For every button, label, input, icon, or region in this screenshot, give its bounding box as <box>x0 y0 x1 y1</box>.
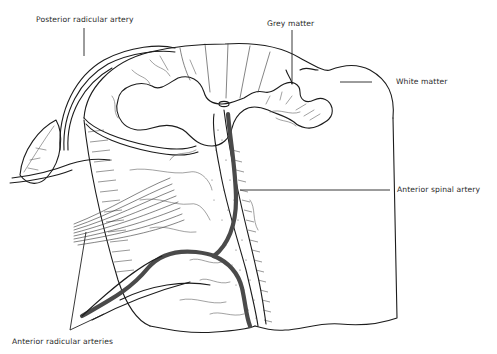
grey-matter-shape <box>117 68 333 146</box>
label-anterior-radicular-arteries: Anterior radicular arteries <box>12 338 113 346</box>
label-posterior-radicular-artery: Posterior radicular artery <box>36 16 134 24</box>
anterior-root-fibres <box>74 178 184 245</box>
label-anterior-spinal-artery: Anterior spinal artery <box>397 186 480 194</box>
surface-vessels <box>130 150 258 315</box>
label-white-matter: White matter <box>396 78 448 86</box>
diagram-illustration <box>0 0 497 354</box>
left-side-hatching <box>88 130 134 272</box>
label-grey-matter: Grey matter <box>267 20 314 28</box>
white-matter-septa <box>180 44 270 98</box>
spinal-cord-blood-supply-diagram: Posterior radicular artery Grey matter W… <box>0 0 497 354</box>
anterior-fissure <box>213 110 266 326</box>
posterior-radicular-artery <box>10 46 198 183</box>
anterior-radicular-arteries <box>82 252 214 320</box>
grey-matter-vessels <box>112 56 320 126</box>
